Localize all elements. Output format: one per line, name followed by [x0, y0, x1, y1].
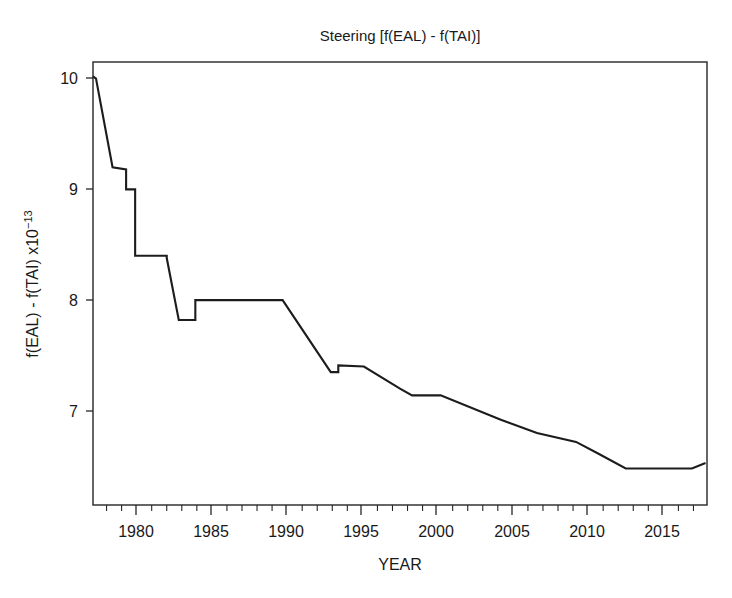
- y-axis-title: f(EAL) - f(TAI) x10−13: [22, 210, 41, 357]
- x-tick-label-1995: 1995: [343, 523, 379, 540]
- x-axis-tick-labels: 1980 1985 1990 1995 2000 2005 2010 2015: [118, 523, 680, 540]
- y-tick-label-7: 7: [69, 403, 78, 420]
- y-tick-label-9: 9: [69, 181, 78, 198]
- x-axis-minor-ticks: [107, 505, 694, 511]
- chart-figure: Steering [f(EAL) - f(TAI)] 10 9 8 7 f(EA…: [0, 0, 732, 598]
- x-tick-label-2000: 2000: [418, 523, 454, 540]
- x-tick-label-2015: 2015: [644, 523, 680, 540]
- x-tick-label-1980: 1980: [118, 523, 154, 540]
- x-axis-title: YEAR: [378, 556, 422, 573]
- y-axis-title-text: f(EAL) - f(TAI) x10: [24, 229, 41, 358]
- x-tick-label-2005: 2005: [494, 523, 530, 540]
- x-tick-label-2010: 2010: [569, 523, 605, 540]
- y-tick-label-10: 10: [60, 70, 78, 87]
- y-axis-tick-labels: 10 9 8 7: [60, 70, 78, 420]
- svg-text:f(EAL) - f(TAI) x10−13: f(EAL) - f(TAI) x10−13: [22, 210, 41, 357]
- chart-title: Steering [f(EAL) - f(TAI)]: [320, 27, 481, 44]
- data-series-line: [93, 76, 706, 468]
- x-tick-label-1985: 1985: [193, 523, 229, 540]
- x-tick-label-1990: 1990: [268, 523, 304, 540]
- y-axis-title-exponent: −13: [22, 210, 34, 229]
- line-chart: Steering [f(EAL) - f(TAI)] 10 9 8 7 f(EA…: [0, 0, 732, 598]
- y-axis-ticks: [86, 78, 93, 411]
- plot-frame: [93, 62, 707, 505]
- x-axis-major-ticks: [136, 505, 662, 515]
- y-tick-label-8: 8: [69, 292, 78, 309]
